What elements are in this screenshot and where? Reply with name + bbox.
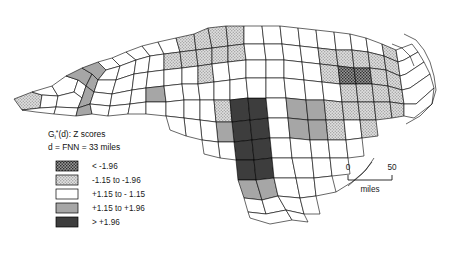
scalebar-units-label: miles (360, 185, 379, 194)
county (356, 84, 374, 102)
county (166, 100, 184, 118)
scalebar-start-label: 0 (346, 163, 351, 172)
county (182, 66, 198, 84)
legend-label-1: -1.15 to -1.96 (92, 176, 141, 185)
county (346, 138, 364, 158)
county (132, 72, 148, 90)
county (236, 160, 256, 180)
county (246, 78, 266, 98)
county (184, 100, 200, 120)
county (352, 50, 370, 68)
county (164, 84, 184, 102)
county (146, 102, 166, 116)
county (340, 84, 358, 102)
county (322, 82, 342, 102)
county (314, 176, 336, 196)
county (304, 80, 324, 100)
county (146, 86, 166, 102)
county (214, 100, 232, 122)
county-hot (230, 98, 250, 122)
legend-label-4: > +1.96 (92, 218, 120, 227)
county (148, 54, 164, 72)
county (320, 64, 340, 84)
county (328, 140, 348, 158)
scalebar-line (348, 175, 392, 180)
legend-title-line2: d = FNN = 33 miles (48, 142, 120, 152)
county (266, 98, 288, 118)
county (54, 107, 78, 116)
county (270, 138, 292, 158)
county (310, 140, 330, 158)
county (326, 120, 346, 140)
county (290, 138, 312, 158)
county (318, 48, 338, 66)
county (246, 60, 266, 78)
county (214, 80, 230, 100)
county (184, 118, 202, 140)
county (358, 102, 376, 120)
county (108, 104, 130, 116)
county (218, 142, 236, 160)
county-hot (232, 120, 252, 142)
county (212, 62, 230, 82)
county (216, 122, 234, 142)
county (244, 44, 266, 60)
county (128, 102, 146, 114)
legend-label-2: +1.15 to - 1.15 (92, 190, 145, 199)
scalebar: 0 50 miles (346, 163, 397, 194)
county (228, 60, 246, 80)
county (264, 44, 284, 60)
county (166, 116, 186, 136)
legend-label-3: +1.15 to +1.96 (92, 204, 145, 213)
county (284, 60, 304, 80)
county (280, 26, 300, 46)
county (202, 140, 220, 158)
county (230, 78, 248, 100)
county (350, 34, 368, 52)
county (288, 118, 310, 140)
legend-swatch-0 (56, 161, 78, 171)
county (274, 178, 300, 198)
county (164, 52, 182, 70)
county (200, 120, 218, 142)
county (200, 100, 216, 122)
county (146, 70, 164, 88)
legend-swatch-2 (56, 189, 78, 199)
legend-label-0: < -1.96 (92, 162, 118, 171)
north-carolina-choropleth-map: Gi*(d): Z scores d = FNN = 33 miles < -1… (0, 0, 449, 253)
county (354, 68, 372, 84)
county-hot (250, 118, 270, 140)
county (360, 120, 378, 138)
county (90, 104, 110, 116)
county (292, 158, 314, 178)
county (198, 64, 214, 84)
county (266, 78, 286, 98)
county (198, 82, 214, 100)
county (262, 26, 282, 44)
county (90, 92, 112, 106)
county (336, 50, 354, 68)
county-hot (252, 138, 272, 160)
county (244, 26, 264, 44)
county (196, 48, 212, 66)
county (390, 102, 404, 118)
county (130, 88, 146, 104)
county (300, 46, 320, 64)
county (164, 68, 182, 86)
county (308, 120, 328, 140)
county-hot (234, 140, 254, 160)
county-hot (248, 98, 268, 120)
county (40, 95, 58, 108)
county (324, 100, 344, 120)
county (286, 98, 308, 120)
county (316, 30, 336, 50)
county (254, 158, 274, 180)
legend-title-line1: Gi*(d): Z scores (48, 129, 105, 140)
legend-swatch-4 (56, 217, 78, 227)
county (14, 92, 42, 110)
legend-swatch-1 (56, 175, 78, 185)
county (266, 60, 284, 78)
county (334, 32, 352, 50)
county (344, 120, 362, 140)
county (312, 158, 332, 178)
